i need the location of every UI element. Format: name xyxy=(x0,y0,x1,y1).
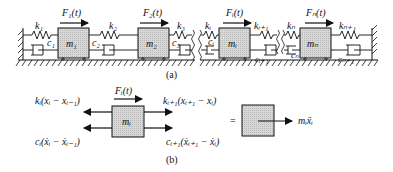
n-dof-spring-mass-damper-figure: F₁(t) F₂(t) Fᵢ(t) Fₙ(t) m₁ m₂ mᵢ mₙ k₁ k… xyxy=(0,0,393,172)
left-spring-force-label: kᵢ(xᵢ − xᵢ₋₁) xyxy=(35,95,81,107)
inertia-force-label: mᵢẍᵢ xyxy=(298,115,313,126)
force-label-2: F₂(t) xyxy=(142,7,163,19)
mass-label-i: mᵢ xyxy=(228,38,237,49)
applied-force-label: Fᵢ(t) xyxy=(114,85,133,97)
spring-label-kn1: kₙ₊₁ xyxy=(339,20,356,31)
free-body-mass-label: mᵢ xyxy=(122,116,131,127)
damper-label-c2: c₂ xyxy=(92,37,100,48)
spring-label-kn: kₙ xyxy=(287,20,296,31)
spring-ki1 xyxy=(250,31,277,39)
left-damper-force-label: cᵢ(ẋᵢ − ẋᵢ₋₁) xyxy=(35,136,81,148)
ground-hatching xyxy=(16,60,194,66)
caption-b: (b) xyxy=(166,154,178,166)
right-spring-force-label: kᵢ₊₁(xᵢ₊₁ − xᵢ) xyxy=(163,95,217,107)
spring-kn xyxy=(284,31,300,39)
break-mark xyxy=(199,30,202,60)
mass-label-2: m₂ xyxy=(146,38,157,49)
damper-label-cn1: cₙ₊₁ xyxy=(338,54,354,64)
damper-label-ci1: cᵢ₊₁ xyxy=(255,54,269,64)
damper-ci xyxy=(201,46,219,54)
right-damper-force-label: cᵢ₊₁(ẋᵢ₊₁ − ẋᵢ) xyxy=(166,136,220,148)
caption-a: (a) xyxy=(166,69,177,81)
damper-label-cn: cₙ xyxy=(291,50,299,60)
damper-label-c1: c₁ xyxy=(47,37,55,48)
equals-sign: = xyxy=(230,115,236,126)
mass-label-1: m₁ xyxy=(66,38,77,49)
spring-label-k3: k₃ xyxy=(177,20,185,31)
break-mark xyxy=(192,30,195,60)
spring-label-k2: k₂ xyxy=(109,20,117,31)
damper-label-ci: cᵢ xyxy=(208,36,214,47)
spring-label-k1: k₁ xyxy=(35,20,43,31)
force-label-1: F₁(t) xyxy=(61,7,82,19)
spring-label-ki: kᵢ xyxy=(205,20,211,31)
left-wall-hatching xyxy=(18,30,23,59)
right-wall-hatching xyxy=(372,25,377,54)
mass-label-n: mₙ xyxy=(307,38,319,49)
spring-label-ki1: kᵢ₊₁ xyxy=(254,20,269,31)
force-label-i: Fᵢ(t) xyxy=(225,7,244,19)
spring-kn1 xyxy=(331,31,372,39)
damper-label-c3: c₃ xyxy=(172,37,180,48)
force-label-n: Fₙ(t) xyxy=(305,7,326,19)
